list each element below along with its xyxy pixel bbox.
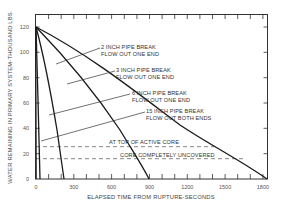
y-tick-label: 0 [26,176,29,182]
y-tick-labels: 0 20 40 60 80 100 120 [20,24,29,182]
x-ticks [49,174,263,179]
label-3-inch-line2: FLOW OUT ONE END [116,74,174,80]
y-tick-label: 80 [23,75,29,81]
x-tick-label: 0 [34,184,37,190]
label-2-inch-line2: FLOW OUT ONE END [101,51,159,57]
x-tick-label: 600 [107,184,116,190]
label-3-inch-line1: 3 INCH PIPE BREAK [116,67,171,73]
curve-15-inch-edge [36,27,37,179]
label-6-inch-line2: FLOW OUT ONE END [132,97,190,103]
x-axis-label: ELAPSED TIME FROM RUPTURE-SECONDS [87,194,215,200]
x-tick-label: 300 [69,184,78,190]
label-15-inch-line1: 15 INCH PIPE BREAK [146,108,204,114]
leader-3-inch [67,71,115,84]
label-15-inch-line2: FLOW OUT BOTH ENDS [146,115,212,121]
label-6-inch-line1: 6 INCH PIPE BREAK [132,90,187,96]
ref-label-top-of-core: AT TOP OF ACTIVE CORE [109,139,179,145]
leader-6-inch [49,94,130,115]
y-tick-label: 120 [20,24,29,30]
y-tick-label: 20 [23,151,29,157]
x-ticks-top [49,15,263,20]
y-tick-label: 100 [20,49,29,55]
y-tick-label: 60 [23,100,29,106]
x-tick-label: 1800 [257,184,269,190]
x-tick-label: 900 [145,184,154,190]
y-axis-label: WATER REMAINING IN PRIMARY SYSTEM-THOUSA… [7,10,13,184]
x-tick-label: 1500 [219,184,231,190]
y-tick-label: 40 [23,125,29,131]
curve-6-inch [36,27,64,179]
x-tick-labels: 0 300 600 900 1200 1500 1800 [34,184,269,190]
x-tick-label: 1200 [181,184,193,190]
label-2-inch-line1: 2 INCH PIPE BREAK [101,44,156,50]
chart: 0 20 40 60 80 100 120 0 300 600 900 1200… [0,0,281,209]
series-annotations: 2 INCH PIPE BREAK FLOW OUT ONE END 3 INC… [101,44,212,121]
